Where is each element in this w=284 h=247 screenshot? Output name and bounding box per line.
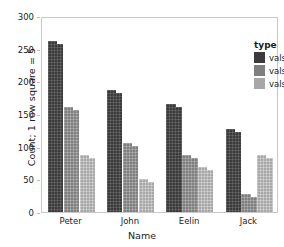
y-tick-mark <box>37 148 40 149</box>
bar-step-notch <box>57 41 63 44</box>
bar-eelin-vals2 <box>182 155 197 212</box>
bar-step-notch <box>266 155 272 158</box>
y-axis-title: Count; 1 row square = 5 <box>24 12 38 202</box>
legend-label-vals2: vals2 <box>269 66 284 76</box>
bar-step-notch <box>89 155 95 158</box>
y-tick-label: 250 <box>4 45 34 55</box>
bar-step-notch <box>132 143 138 146</box>
x-tick-label: John <box>100 216 160 226</box>
bar-jack-vals3 <box>257 155 272 212</box>
y-tick-label: 300 <box>4 12 34 22</box>
legend-swatch-vals3 <box>254 78 265 89</box>
y-tick-label: 200 <box>4 77 34 87</box>
bar-step-notch <box>148 179 154 182</box>
legend-entry-vals1: vals1 <box>254 52 284 63</box>
bar-jack-vals1 <box>226 129 241 212</box>
bar-eelin-vals1 <box>166 104 181 212</box>
bar-peter-vals3 <box>80 155 95 212</box>
bar-step-notch <box>235 129 241 132</box>
x-tick-label: Peter <box>41 216 101 226</box>
bar-peter-vals1 <box>48 41 63 212</box>
y-tick-mark <box>37 82 40 83</box>
plot-inner <box>42 18 277 212</box>
legend-label-vals3: vals3 <box>269 79 284 89</box>
x-tick-label: Eelin <box>159 216 219 226</box>
bar-chart: Count; 1 row square = 5 0501001502002503… <box>0 0 284 247</box>
bar-step-notch <box>116 90 122 93</box>
bar-john-vals3 <box>139 179 154 212</box>
legend-title: type <box>254 40 284 50</box>
x-axis-title: Name <box>0 230 284 241</box>
bar-step-notch <box>73 107 79 110</box>
y-tick-mark <box>37 50 40 51</box>
legend-swatch-vals2 <box>254 65 265 76</box>
plot-area: type vals1vals2vals3 <box>41 17 278 213</box>
bar-john-vals2 <box>123 143 138 212</box>
legend-entry-vals3: vals3 <box>254 78 284 89</box>
bar-step-notch <box>191 155 197 158</box>
legend-label-vals1: vals1 <box>269 53 284 63</box>
y-tick-mark <box>37 115 40 116</box>
y-tick-mark <box>37 17 40 18</box>
y-tick-label: 150 <box>4 110 34 120</box>
y-tick-mark <box>37 213 40 214</box>
legend: type vals1vals2vals3 <box>254 40 284 91</box>
y-tick-label: 50 <box>4 175 34 185</box>
bar-eelin-vals3 <box>198 167 213 212</box>
y-tick-mark <box>37 180 40 181</box>
bar-step-notch <box>176 104 182 107</box>
legend-entries: vals1vals2vals3 <box>254 52 284 89</box>
bar-step-notch <box>207 167 213 170</box>
y-tick-label: 0 <box>4 208 34 218</box>
bar-peter-vals2 <box>64 107 79 212</box>
bar-jack-vals2 <box>241 194 256 212</box>
bar-john-vals1 <box>107 90 122 212</box>
legend-swatch-vals1 <box>254 52 265 63</box>
bar-step-notch <box>251 194 257 197</box>
legend-entry-vals2: vals2 <box>254 65 284 76</box>
x-tick-label: Jack <box>218 216 278 226</box>
y-tick-label: 100 <box>4 143 34 153</box>
